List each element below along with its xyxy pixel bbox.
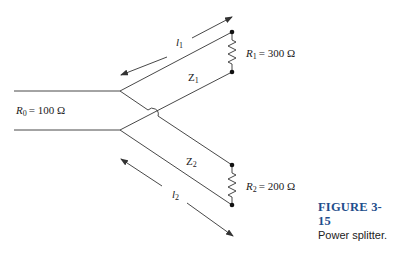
r1-label: R1= 300 Ω [245,47,295,61]
z2-label: Z2 [186,155,197,169]
branch1-conductor-bottom [120,72,232,130]
node-r1-top [230,30,235,35]
l1-label: l1 [176,36,183,50]
node-r1-bottom [230,70,235,75]
l2-arrow-down-right [187,203,233,236]
z1-label: Z1 [188,71,199,85]
node-r2-bottom [230,203,235,208]
source-resistance-label: R0= 100 Ω [15,104,65,118]
r2-label: R2= 200 Ω [245,180,295,194]
l1-arrow-down-left [121,57,167,75]
l2-arrow-up-left [121,159,162,186]
resistor-r1 [228,32,236,72]
node-r2-top [230,163,235,168]
branch2-conductor-top [120,91,232,165]
figure-caption: FIGURE 3-15 Power splitter. [318,200,393,242]
l2-label: l2 [172,188,179,202]
figure-number: FIGURE 3-15 [318,200,393,228]
resistor-r2 [228,165,236,205]
figure-caption-text: Power splitter. [318,228,393,242]
